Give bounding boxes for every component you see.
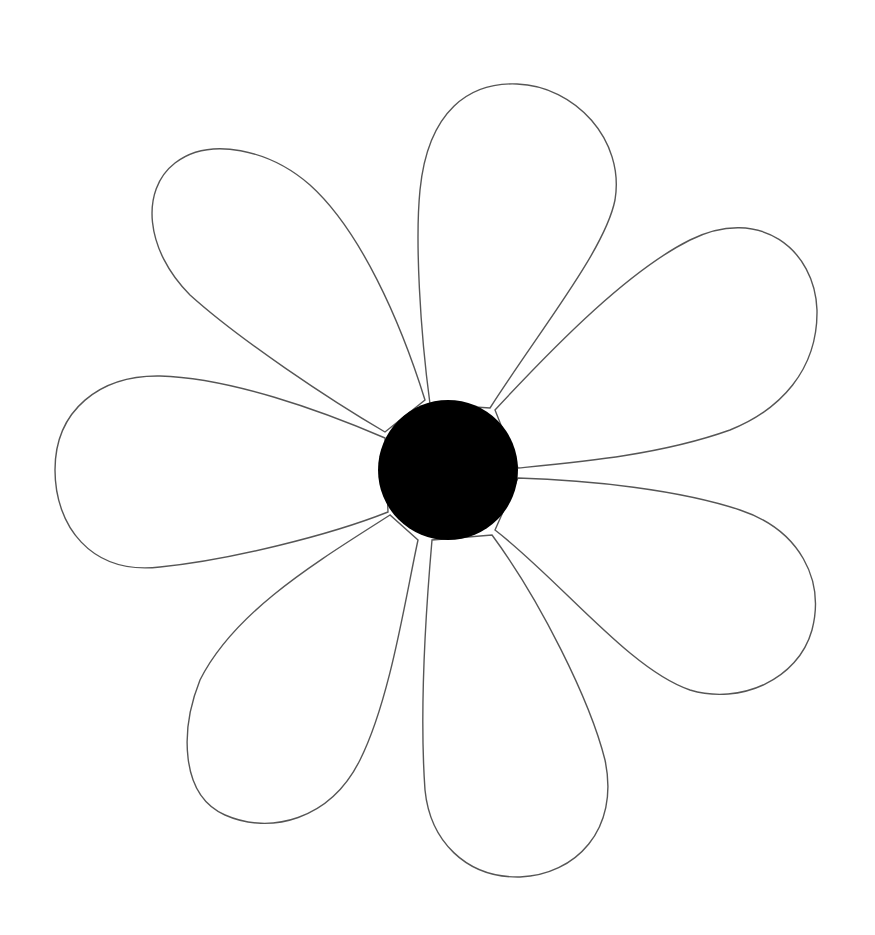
flower-center bbox=[378, 400, 518, 540]
flower-drawing bbox=[0, 0, 875, 935]
petal-lower-left bbox=[187, 515, 418, 823]
petal-left bbox=[55, 376, 388, 568]
